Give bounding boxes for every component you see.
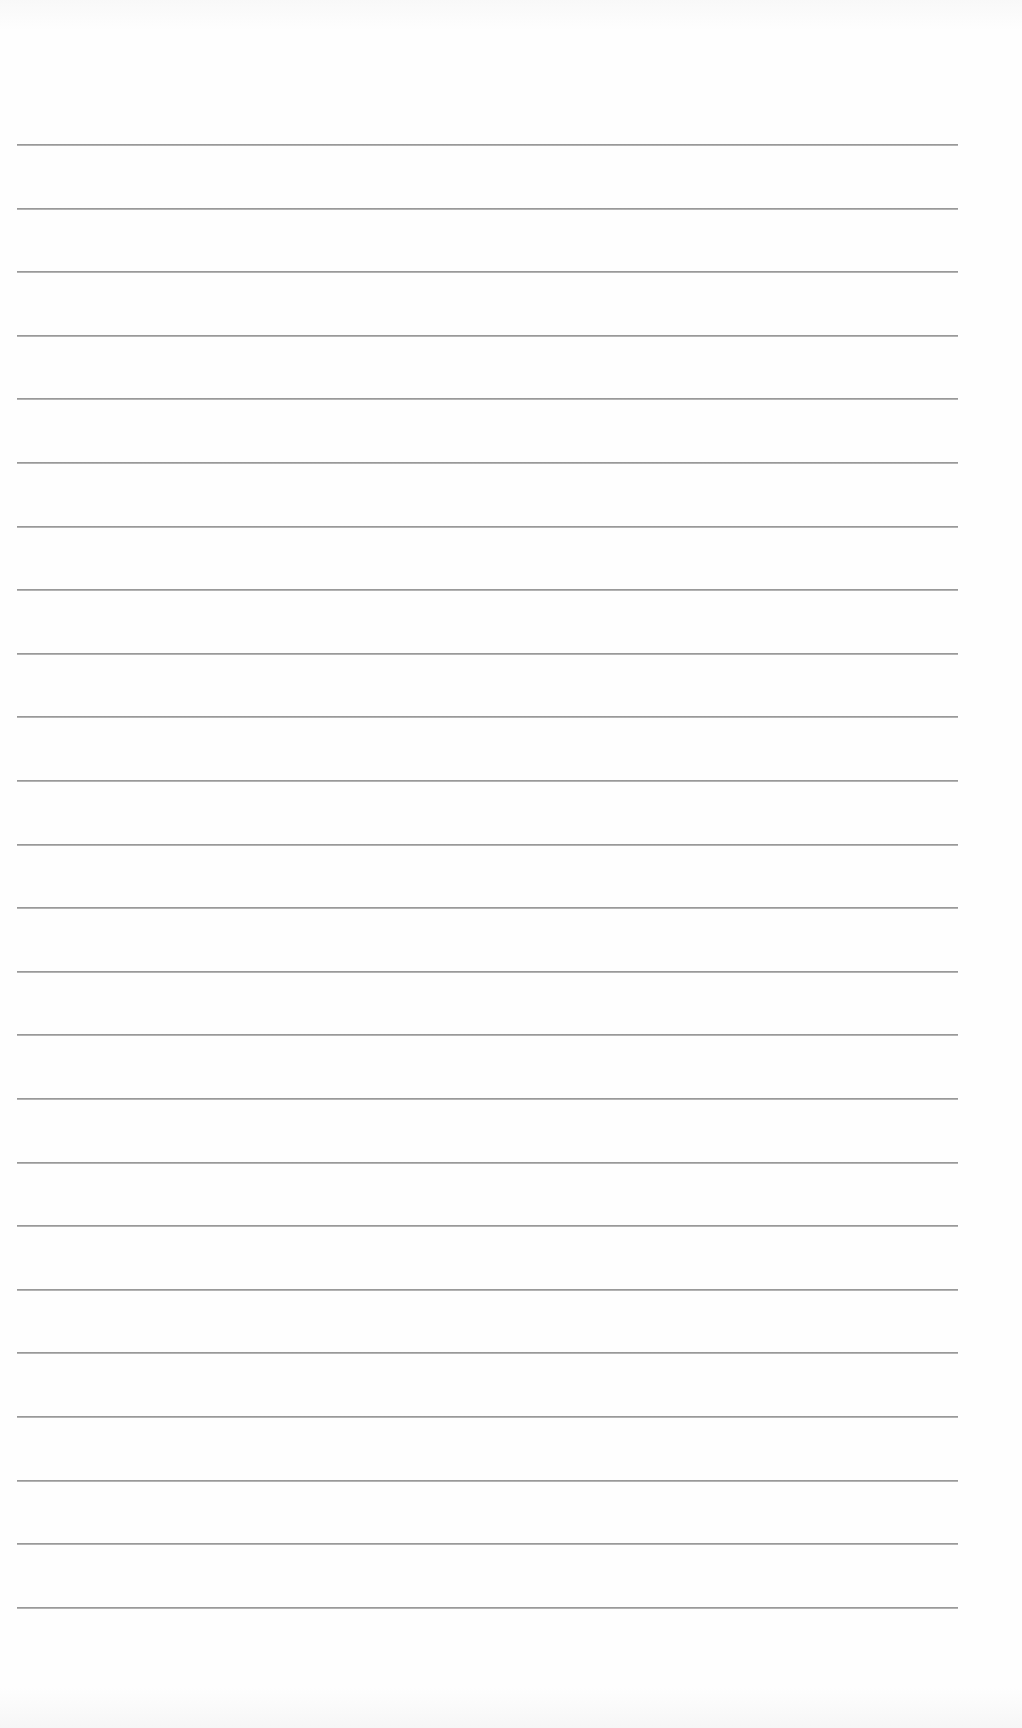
ruled-line [17, 907, 958, 909]
ruled-line [17, 844, 958, 846]
ruled-line [17, 1098, 958, 1100]
ruled-line [17, 208, 958, 210]
ruled-line [17, 971, 958, 973]
ruled-line [17, 1034, 958, 1036]
ruled-line [17, 271, 958, 273]
ruled-line [17, 335, 958, 337]
ruled-line [17, 780, 958, 782]
ruled-line [17, 1225, 958, 1227]
ruled-line [17, 1543, 958, 1545]
ruled-line [17, 1162, 958, 1164]
ruled-line [17, 1480, 958, 1482]
ruled-line [17, 653, 958, 655]
ruled-line [17, 526, 958, 528]
ruled-line [17, 398, 958, 400]
lined-paper-page [0, 0, 1022, 1728]
top-edge-shadow [0, 0, 1022, 30]
ruled-line [17, 716, 958, 718]
ruled-line [17, 1416, 958, 1418]
ruled-line [17, 1352, 958, 1354]
ruled-line [17, 1289, 958, 1291]
bottom-edge-shadow [0, 1688, 1022, 1728]
ruled-line [17, 589, 958, 591]
ruled-line [17, 462, 958, 464]
ruled-line [17, 144, 958, 146]
ruled-line [17, 1607, 958, 1609]
